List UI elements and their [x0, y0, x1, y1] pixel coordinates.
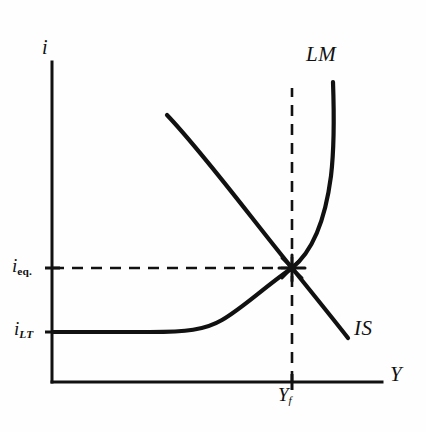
plot-canvas — [0, 0, 426, 432]
i-eq-subscript: eq. — [17, 265, 32, 277]
equilibrium-point-dot — [288, 264, 297, 273]
i-lt-axis-label: iLT — [14, 318, 33, 340]
is-curve-label: IS — [354, 316, 373, 341]
lm-curve-label: LM — [306, 42, 336, 67]
y-axis-label: i — [42, 36, 48, 59]
i-lt-subscript: LT — [19, 328, 33, 340]
yf-subscript: f — [289, 394, 292, 406]
is-lm-diagram: i Y LM IS ieq. iLT Yf — [0, 0, 426, 432]
x-axis-label: Y — [390, 362, 402, 387]
i-eq-axis-label: ieq. — [12, 255, 32, 277]
yf-base: Y — [278, 384, 289, 405]
yf-axis-label: Yf — [278, 384, 292, 406]
